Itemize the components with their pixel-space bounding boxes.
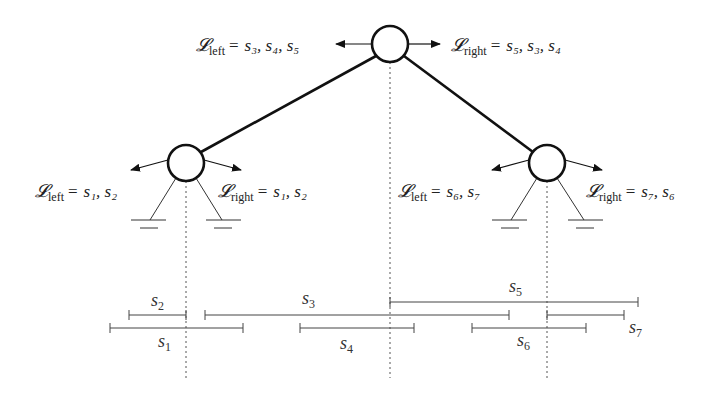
script-l-symbol: 𝓛 <box>196 34 209 55</box>
left-child-left-label: 𝓛left=s₁, s₂ <box>35 182 117 200</box>
segment-label-s1: s1 <box>158 332 171 350</box>
label-values: s₁, s₂ <box>84 182 118 201</box>
script-l-symbol: 𝓛 <box>451 34 464 55</box>
equals: = <box>229 36 239 55</box>
script-l-symbol: 𝓛 <box>586 180 599 201</box>
subscript: right <box>599 190 622 204</box>
left-child-right-label: 𝓛right=s₁, s₂ <box>218 182 307 200</box>
script-l-symbol: 𝓛 <box>218 180 231 201</box>
label-values: s₆, s₇ <box>447 182 481 201</box>
equals: = <box>491 36 501 55</box>
segment-label-s6: s6 <box>517 331 530 349</box>
segment-s7 <box>547 310 624 320</box>
subscript: right <box>464 44 487 58</box>
subscript: left <box>209 44 225 58</box>
segment-s3 <box>205 310 509 320</box>
subscript: left <box>411 190 427 204</box>
segment-s4 <box>300 323 414 333</box>
label-values: s₃, s₄, s₅ <box>245 36 300 55</box>
segment-s1 <box>110 323 243 333</box>
root-left-label: 𝓛left=s₃, s₄, s₅ <box>196 36 299 54</box>
equals: = <box>626 182 636 201</box>
ground-icon <box>131 178 176 228</box>
edge-root-right <box>404 56 533 152</box>
right-child-right-arrow <box>565 160 602 170</box>
segment-label-s3: s3 <box>302 289 315 307</box>
right-child-left-label: 𝓛left=s₆, s₇ <box>398 182 480 200</box>
root-right-label: 𝓛right=s₅, s₃, s₄ <box>451 36 561 54</box>
right-child-node <box>529 145 565 181</box>
segment-label-s7: s7 <box>629 318 642 336</box>
segment-label-s2: s2 <box>151 291 164 309</box>
segment-label-s5: s5 <box>509 277 522 295</box>
subscript: right <box>231 190 254 204</box>
left-child-left-arrow <box>131 160 168 170</box>
script-l-symbol: 𝓛 <box>35 180 48 201</box>
label-values: s₇, s₆ <box>641 182 675 201</box>
ground-icon <box>492 178 537 228</box>
edge-root-left <box>201 56 376 152</box>
equals: = <box>258 182 268 201</box>
root-node <box>372 26 408 62</box>
right-child-right-label: 𝓛right=s₇, s₆ <box>586 182 675 200</box>
segment-s5 <box>390 297 638 307</box>
segment-label-s4: s4 <box>340 334 353 352</box>
equals: = <box>68 182 78 201</box>
label-values: s₅, s₃, s₄ <box>506 36 561 55</box>
equals: = <box>431 182 441 201</box>
left-child-node <box>168 145 204 181</box>
script-l-symbol: 𝓛 <box>398 180 411 201</box>
subscript: left <box>48 190 64 204</box>
label-values: s₁, s₂ <box>273 182 307 201</box>
left-child-right-arrow <box>204 160 241 170</box>
right-child-left-arrow <box>492 160 529 170</box>
